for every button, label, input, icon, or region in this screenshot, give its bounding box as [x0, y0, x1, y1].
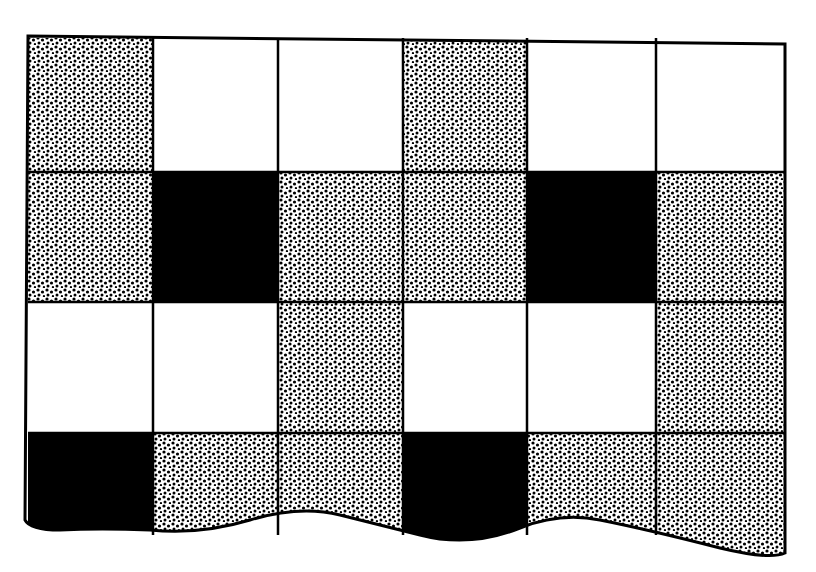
grid-cell-2-1 — [153, 302, 278, 433]
grid-cell-2-0 — [28, 302, 153, 433]
grid-figure — [0, 0, 816, 572]
grid-cell-0-1 — [153, 38, 278, 172]
grid-cell-3-2 — [278, 433, 403, 560]
grid-cell-0-3 — [403, 38, 527, 172]
grid-cell-0-2 — [278, 38, 403, 172]
grid-cell-2-2 — [278, 302, 403, 433]
grid-cell-1-4 — [527, 172, 656, 302]
grid-cell-1-5 — [656, 172, 785, 302]
grid-cell-2-4 — [527, 302, 656, 433]
grid-cell-0-4 — [527, 38, 656, 172]
grid-cell-1-2 — [278, 172, 403, 302]
grid-cell-2-3 — [403, 302, 527, 433]
grid-cell-0-5 — [656, 38, 785, 172]
grid-cell-3-0 — [28, 433, 153, 560]
grid-cell-3-1 — [153, 433, 278, 560]
grid-cell-1-3 — [403, 172, 527, 302]
grid-cell-3-4 — [527, 433, 656, 560]
grid-cell-3-5 — [656, 433, 785, 560]
grid-cell-0-0 — [28, 38, 153, 172]
grid-cell-1-1 — [153, 172, 278, 302]
grid-cell-1-0 — [28, 172, 153, 302]
grid-cell-2-5 — [656, 302, 785, 433]
